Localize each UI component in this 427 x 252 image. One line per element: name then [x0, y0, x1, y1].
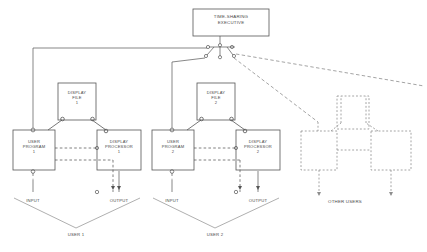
- other-users-ghost-arrows: [317, 192, 393, 196]
- user1-input-label: INPUT: [15, 198, 51, 203]
- user1-processor-line3: 1: [97, 149, 141, 154]
- other-users-ghost-block: [301, 96, 411, 195]
- user1-output-label: OUTPUT: [99, 198, 139, 203]
- executive-to-other-users-dashed-links: [234, 54, 424, 122]
- ghost-program-box: [301, 131, 337, 170]
- ghost-file-box: [337, 96, 369, 129]
- user2-file-label: DISPLAY FILE 2: [197, 90, 235, 105]
- user2-dashed-data-paths: [194, 148, 240, 188]
- user1-file-label: DISPLAY FILE 1: [58, 90, 96, 105]
- user1-processor-label: DISPLAY PROCESSOR 1: [97, 139, 141, 154]
- user2-input-label: INPUT: [154, 198, 190, 203]
- other-users-caption: OTHER USERS: [312, 199, 378, 205]
- diagram-vector-layer: [0, 0, 427, 252]
- user1-io-lines: [31, 170, 119, 192]
- user1-io-arrows: [31, 176, 121, 190]
- user2-program-line3: 2: [152, 149, 194, 154]
- user2-processor-line3: 2: [236, 149, 280, 154]
- user1-program-label: USER PROGRAM 1: [13, 139, 55, 154]
- user2-caption: USER 2: [195, 232, 235, 237]
- diagram-canvas: TIME-SHARING EXECUTIVE USER PROGRAM 1 DI…: [0, 0, 427, 252]
- user2-io-lines: [170, 170, 258, 192]
- executive-title-line2: EXECUTIVE: [193, 20, 269, 26]
- user2-output-label: OUTPUT: [238, 198, 278, 203]
- user2-file-line3: 2: [197, 100, 235, 105]
- user1-caption: USER 1: [56, 232, 96, 237]
- user1-file-line3: 1: [58, 100, 96, 105]
- executive-title: TIME-SHARING EXECUTIVE: [193, 14, 269, 25]
- executive-bus-lines: [204, 36, 235, 59]
- user2-program-label: USER PROGRAM 2: [152, 139, 194, 154]
- ghost-processor-box: [371, 131, 411, 170]
- user1-program-line3: 1: [13, 149, 55, 154]
- user2-processor-label: DISPLAY PROCESSOR 2: [236, 139, 280, 154]
- user2-io-arrows: [170, 176, 260, 190]
